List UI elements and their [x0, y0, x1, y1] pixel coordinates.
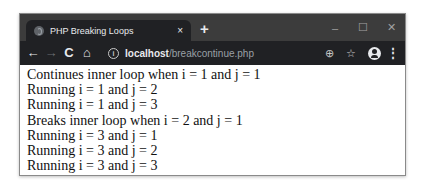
- output-line: Running i = 1 and j = 3: [27, 97, 405, 112]
- browser-tab[interactable]: PHP Breaking Loops ×: [26, 20, 191, 41]
- profile-avatar-icon[interactable]: [368, 47, 381, 60]
- close-window-button[interactable]: ✕: [377, 21, 405, 34]
- browser-window: PHP Breaking Loops × + – ☐ ✕ ← → C ⌂ i l…: [19, 13, 406, 176]
- window-controls: – ☐ ✕: [321, 14, 405, 41]
- page-content: Continues inner loop when i = 1 and j = …: [20, 65, 405, 175]
- tab-close-icon[interactable]: ×: [177, 25, 183, 36]
- output-line: Running i = 3 and j = 1: [27, 128, 405, 143]
- title-bar: PHP Breaking Loops × + – ☐ ✕: [20, 14, 405, 41]
- menu-dots-icon[interactable]: ⋮: [387, 46, 399, 60]
- maximize-button[interactable]: ☐: [349, 21, 377, 34]
- output-line: Continues inner loop when i = 1 and j = …: [27, 67, 405, 82]
- address-bar[interactable]: i localhost/breakcontinue.php: [108, 41, 318, 65]
- url-path: /breakcontinue.php: [169, 48, 254, 59]
- browser-toolbar: ← → C ⌂ i localhost/breakcontinue.php ⊕ …: [20, 41, 405, 65]
- output-line: Running i = 3 and j = 2: [27, 143, 405, 158]
- zoom-icon[interactable]: ⊕: [318, 47, 340, 60]
- output-line: Breaks inner loop when i = 2 and j = 1: [27, 113, 405, 128]
- info-icon[interactable]: i: [108, 48, 119, 59]
- bookmark-star-icon[interactable]: ☆: [340, 47, 362, 60]
- url-text[interactable]: localhost/breakcontinue.php: [125, 48, 254, 59]
- output-line: Running i = 3 and j = 3: [27, 158, 405, 173]
- output-line: Running i = 1 and j = 2: [27, 82, 405, 97]
- back-arrow-icon[interactable]: ←: [24, 41, 42, 65]
- new-tab-button[interactable]: +: [200, 20, 209, 37]
- toolbar-actions: ⊕ ☆ ⋮: [318, 46, 399, 60]
- reload-icon[interactable]: C: [60, 41, 78, 65]
- url-host: localhost: [125, 48, 169, 59]
- forward-arrow-icon[interactable]: →: [42, 41, 60, 65]
- tab-title: PHP Breaking Loops: [50, 26, 177, 36]
- minimize-button[interactable]: –: [321, 22, 349, 34]
- globe-icon: [34, 26, 44, 36]
- home-icon[interactable]: ⌂: [78, 41, 96, 65]
